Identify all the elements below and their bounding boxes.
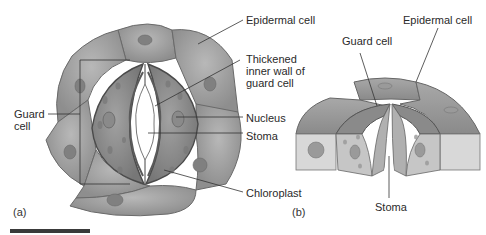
label-stoma-a: Stoma — [246, 130, 278, 142]
label-thickened-inner-wall: Thickened inner wall of guard cell — [246, 53, 305, 89]
label-guard-cell-a: Guard cell — [14, 108, 45, 132]
panel-b-illustration — [296, 78, 480, 176]
label-chloroplast: Chloroplast — [246, 187, 302, 199]
figure-caption-truncated — [10, 229, 90, 233]
label-nucleus: Nucleus — [246, 112, 286, 124]
label-guard-cell-b: Guard cell — [342, 35, 392, 47]
stomata-diagram — [0, 0, 486, 235]
label-epidermal-cell-b: Epidermal cell — [403, 14, 472, 26]
label-stoma-b: Stoma — [375, 201, 407, 213]
nucleus — [172, 111, 184, 127]
label-epidermal-cell-a: Epidermal cell — [246, 14, 315, 26]
stoma-pore — [136, 84, 155, 160]
panel-b-label: (b) — [292, 206, 305, 218]
panel-a-label: (a) — [13, 206, 26, 218]
panel-a-illustration — [46, 24, 241, 216]
